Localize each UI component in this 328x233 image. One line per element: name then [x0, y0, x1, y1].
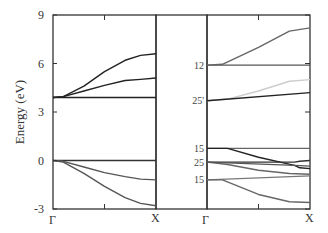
band-band-25-flat	[207, 161, 310, 163]
y-tick-3: 3	[38, 105, 44, 119]
y-tick-0: 0	[38, 154, 44, 168]
band-band-12-upper	[207, 28, 310, 65]
band-band-25p-light	[207, 80, 310, 101]
x-label-x-right: X	[305, 211, 314, 225]
band-band-upper	[53, 54, 156, 98]
y-tick-9: 9	[38, 8, 44, 22]
y-tick-6: 6	[38, 57, 44, 71]
band-label: 15	[194, 174, 204, 185]
band-band-25p-dark	[207, 93, 310, 101]
band-symmetry-labels: 1225'152515	[192, 60, 204, 186]
y-tick-neg3: -3	[34, 202, 44, 216]
band-lines	[53, 28, 310, 206]
band-structure-chart: 9 6 3 0 -3 Energy (eV) Γ X Γ X 1225'1525…	[0, 0, 328, 233]
x-label-x-left: X	[151, 211, 160, 225]
band-label: 25'	[192, 95, 204, 106]
axis-labels: 9 6 3 0 -3 Energy (eV) Γ X Γ X	[12, 8, 314, 227]
x-label-gamma-right: Γ	[202, 213, 209, 227]
band-band-15-lower	[207, 180, 310, 203]
band-label: 25	[194, 157, 204, 168]
band-label: 15	[194, 143, 204, 154]
axis-ticks	[53, 15, 310, 209]
band-label: 12	[194, 60, 204, 71]
plot-frames	[53, 15, 310, 209]
band-band-valence-1	[53, 161, 156, 180]
band-band-middle	[53, 78, 156, 97]
panel-frame-0	[53, 15, 156, 209]
y-axis-title: Energy (eV)	[12, 80, 27, 144]
x-label-gamma-left: Γ	[49, 213, 56, 227]
band-band-valence-2	[53, 161, 156, 206]
